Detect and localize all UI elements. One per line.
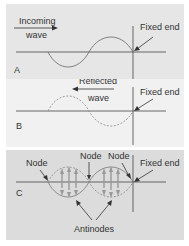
pointer-arrow <box>137 99 153 109</box>
node-label-1: Node <box>26 158 48 168</box>
arrowhead-icon <box>107 200 112 206</box>
pointer-arrow <box>137 37 153 49</box>
node-label-3: Node <box>108 151 130 161</box>
caption-line1: Reflected <box>79 79 117 86</box>
fixed-end-label: Fixed end <box>140 158 180 168</box>
fixed-end-label: Fixed end <box>140 22 180 32</box>
node-label-2: Node <box>80 151 102 161</box>
panel-label: B <box>16 121 22 131</box>
antinodes-label: Antinodes <box>74 224 115 234</box>
panel-a-incoming-wave: Incoming wave Fixed end A <box>6 4 184 79</box>
antinode-pointer <box>78 203 92 220</box>
caption-line2: wave <box>87 93 109 103</box>
arrowhead-icon <box>52 26 58 31</box>
arrowhead-icon <box>134 106 140 111</box>
arrowhead-icon <box>76 200 81 206</box>
arrowhead-icon <box>72 87 78 92</box>
panel-c-standing-wave: Node Node Node Fixed end C Antinodes <box>6 150 184 240</box>
panel-b-reflected-wave: Reflected wave Fixed end B <box>6 79 184 147</box>
antinode-pointer <box>96 203 110 220</box>
arrowhead-icon <box>43 175 48 181</box>
fixed-end-label: Fixed end <box>140 87 180 97</box>
caption-line1: Incoming <box>19 16 56 26</box>
arrowhead-icon <box>134 177 140 182</box>
arrowhead-icon <box>134 46 140 51</box>
panel-label: A <box>14 65 20 75</box>
pointer-arrow <box>137 170 153 180</box>
caption-line2: wave <box>25 30 47 40</box>
panel-label: C <box>16 188 23 198</box>
